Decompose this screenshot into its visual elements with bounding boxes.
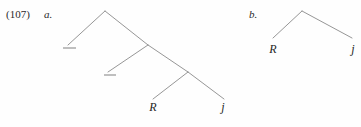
branch-a-root-left (68, 11, 105, 45)
branch-a-mid-left (108, 45, 148, 72)
tree-a-leaf-R: R (145, 100, 161, 115)
tree-b-leaf-j: j (346, 42, 360, 57)
branch-a-low-right (188, 72, 224, 99)
syntax-tree-figure: (107) a. b. R j R j (0, 0, 361, 127)
branch-a-low-left (153, 72, 188, 99)
tree-a-empty-node-marks (63, 48, 116, 75)
branch-b-root-right (302, 11, 352, 38)
tree-branches-svg (0, 0, 361, 127)
tree-a-leaf-j: j (216, 100, 230, 115)
tree-b-leaf-R: R (265, 42, 281, 57)
tree-a-branches (68, 11, 224, 99)
branch-a-mid-right (148, 45, 188, 72)
tree-b-branches (273, 11, 352, 38)
branch-b-root-left (273, 11, 302, 38)
branch-a-root-right (105, 11, 148, 45)
